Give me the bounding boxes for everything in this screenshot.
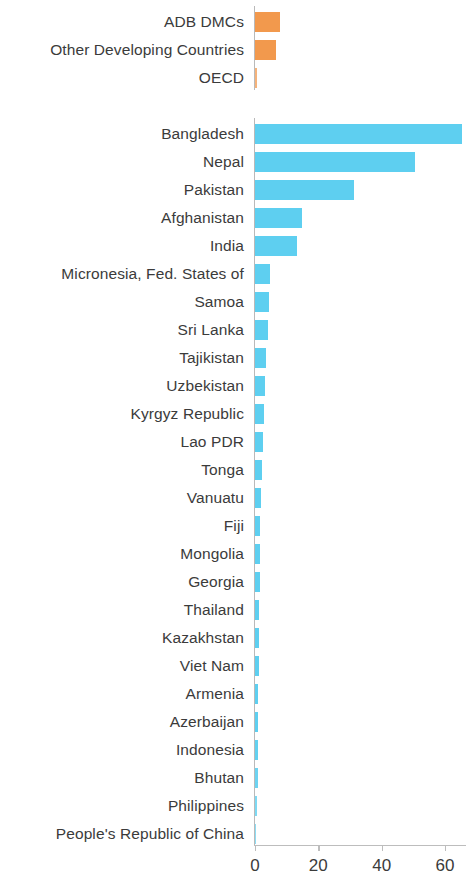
bar-people-s-republic-of-china — [255, 824, 256, 844]
bar-azerbaijan — [255, 712, 258, 732]
bar-label-uzbekistan: Uzbekistan — [0, 372, 244, 400]
bar-label-bangladesh: Bangladesh — [0, 120, 244, 148]
axis-tick-mark-0 — [255, 845, 256, 851]
bar-row: India — [0, 232, 466, 260]
bar-row: Bhutan — [0, 764, 466, 792]
bar-pakistan — [255, 180, 354, 200]
bar-label-philippines: Philippines — [0, 792, 244, 820]
bar-row: Mongolia — [0, 540, 466, 568]
bar-row: Georgia — [0, 568, 466, 596]
bar-label-india: India — [0, 232, 244, 260]
bar-label-samoa: Samoa — [0, 288, 244, 316]
bar-row: Samoa — [0, 288, 466, 316]
bar-label-georgia: Georgia — [0, 568, 244, 596]
bar-tonga — [255, 460, 262, 480]
bar-fiji — [255, 516, 260, 536]
bar-philippines — [255, 796, 257, 816]
bar-uzbekistan — [255, 376, 265, 396]
bar-micronesia-fed-states-of — [255, 264, 270, 284]
bar-kyrgyz-republic — [255, 404, 264, 424]
bar-label-nepal: Nepal — [0, 148, 244, 176]
bar-indonesia — [255, 740, 258, 760]
axis-tick-mark-40 — [382, 845, 383, 851]
bar-row: Indonesia — [0, 736, 466, 764]
axis-tick-label-0: 0 — [235, 856, 275, 876]
bar-row: Micronesia, Fed. States of — [0, 260, 466, 288]
bar-afghanistan — [255, 208, 302, 228]
bar-mongolia — [255, 544, 260, 564]
axis-tick-mark-60 — [445, 845, 446, 851]
bar-label-tonga: Tonga — [0, 456, 244, 484]
bar-oecd — [255, 68, 257, 88]
bar-label-fiji: Fiji — [0, 512, 244, 540]
bar-bangladesh — [255, 124, 462, 144]
bar-row: Tonga — [0, 456, 466, 484]
bar-thailand — [255, 600, 259, 620]
bar-lao-pdr — [255, 432, 263, 452]
bar-row: Afghanistan — [0, 204, 466, 232]
bar-label-lao-pdr: Lao PDR — [0, 428, 244, 456]
bar-row: Viet Nam — [0, 652, 466, 680]
bar-row: Uzbekistan — [0, 372, 466, 400]
bar-tajikistan — [255, 348, 266, 368]
bar-chart: ADB DMCsOther Developing CountriesOECD B… — [0, 0, 466, 892]
bar-label-micronesia-fed-states-of: Micronesia, Fed. States of — [0, 260, 244, 288]
bar-label-kyrgyz-republic: Kyrgyz Republic — [0, 400, 244, 428]
bar-nepal — [255, 152, 415, 172]
bar-row: Nepal — [0, 148, 466, 176]
bar-label-azerbaijan: Azerbaijan — [0, 708, 244, 736]
bar-india — [255, 236, 297, 256]
bar-row: Philippines — [0, 792, 466, 820]
axis-tick-label-40: 40 — [362, 856, 402, 876]
bar-label-tajikistan: Tajikistan — [0, 344, 244, 372]
bar-viet-nam — [255, 656, 259, 676]
bar-label-armenia: Armenia — [0, 680, 244, 708]
bar-georgia — [255, 572, 260, 592]
bar-label-afghanistan: Afghanistan — [0, 204, 244, 232]
bar-adb-dmcs — [255, 12, 280, 32]
bar-row: Vanuatu — [0, 484, 466, 512]
bar-row: OECD — [0, 64, 466, 92]
bar-vanuatu — [255, 488, 261, 508]
bar-row: Azerbaijan — [0, 708, 466, 736]
axis-tick-label-20: 20 — [298, 856, 338, 876]
axis-tick-label-60: 60 — [425, 856, 465, 876]
bar-row: Thailand — [0, 596, 466, 624]
axis-tick-mark-20 — [318, 845, 319, 851]
bar-label-thailand: Thailand — [0, 596, 244, 624]
bar-row: Sri Lanka — [0, 316, 466, 344]
bar-row: Fiji — [0, 512, 466, 540]
bar-bhutan — [255, 768, 258, 788]
bar-label-indonesia: Indonesia — [0, 736, 244, 764]
bar-other-developing-countries — [255, 40, 276, 60]
bar-label-adb-dmcs: ADB DMCs — [0, 8, 244, 36]
bar-row: Lao PDR — [0, 428, 466, 456]
bar-label-mongolia: Mongolia — [0, 540, 244, 568]
bar-label-pakistan: Pakistan — [0, 176, 244, 204]
bar-row: ADB DMCs — [0, 8, 466, 36]
bar-row: Kazakhstan — [0, 624, 466, 652]
bar-row: Pakistan — [0, 176, 466, 204]
bar-row: Kyrgyz Republic — [0, 400, 466, 428]
bar-row: Armenia — [0, 680, 466, 708]
bar-label-bhutan: Bhutan — [0, 764, 244, 792]
bar-label-viet-nam: Viet Nam — [0, 652, 244, 680]
bar-label-sri-lanka: Sri Lanka — [0, 316, 244, 344]
bar-samoa — [255, 292, 269, 312]
bar-sri-lanka — [255, 320, 268, 340]
bar-row: Bangladesh — [0, 120, 466, 148]
bar-label-vanuatu: Vanuatu — [0, 484, 244, 512]
axis-horizontal-line — [254, 845, 466, 846]
bar-row: Tajikistan — [0, 344, 466, 372]
bar-label-oecd: OECD — [0, 64, 244, 92]
bar-kazakhstan — [255, 628, 259, 648]
bar-label-people-s-republic-of-china: People's Republic of China — [0, 820, 244, 848]
bar-row: Other Developing Countries — [0, 36, 466, 64]
bar-label-other-developing-countries: Other Developing Countries — [0, 36, 244, 64]
bar-label-kazakhstan: Kazakhstan — [0, 624, 244, 652]
bar-armenia — [255, 684, 258, 704]
bar-row: People's Republic of China — [0, 820, 466, 848]
